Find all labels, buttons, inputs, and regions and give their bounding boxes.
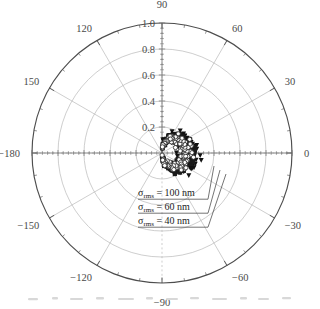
data-marker-40 <box>188 142 192 146</box>
angular-tick-30 <box>270 88 275 91</box>
data-marker-100 <box>198 153 203 158</box>
anno-100-label: σrms = 100 nm <box>138 187 195 200</box>
angular-tick-40 <box>259 69 261 71</box>
radial-tick-label: 0.6 <box>142 70 155 81</box>
polar-chart-canvas: 0306090120150−180−150−120−90−60−30 0.20.… <box>0 0 320 309</box>
angular-tick-310 <box>244 250 246 252</box>
angular-tick-320 <box>259 235 261 237</box>
data-marker-40 <box>163 163 167 167</box>
angular-tick-50 <box>244 53 246 55</box>
angle-tick-label: 150 <box>24 76 40 87</box>
radial-tick-label: 0.2 <box>142 122 155 133</box>
angular-tick-330 <box>270 215 275 218</box>
polar-plot-figure: 0306090120150−180−150−120−90−60−30 0.20.… <box>0 0 320 309</box>
angular-tick-150 <box>49 88 54 91</box>
data-marker-40 <box>188 137 192 141</box>
data-marker-40 <box>184 166 188 170</box>
data-marker-100 <box>186 173 191 178</box>
angular-tick-240 <box>97 261 100 266</box>
angle-tick-label: 120 <box>76 23 92 34</box>
angle-tick-label: −150 <box>18 220 40 231</box>
angular-tick-60 <box>224 40 227 45</box>
data-marker-40 <box>161 158 165 162</box>
data-marker-40 <box>180 136 184 140</box>
data-marker-40 <box>191 155 195 159</box>
angular-tick-120 <box>97 40 100 45</box>
angle-tick-label: −90 <box>154 297 170 308</box>
angle-tick-label: −30 <box>285 220 301 231</box>
data-marker-100 <box>199 158 204 163</box>
data-marker-60 <box>191 160 195 164</box>
angle-tick-label: 90 <box>157 0 168 10</box>
radial-tick-label: 0.4 <box>142 96 156 107</box>
data-marker-40 <box>190 151 194 155</box>
angle-tick-label: 30 <box>285 76 296 87</box>
angle-tick-label: 60 <box>232 23 243 34</box>
angular-tick-210 <box>49 215 54 218</box>
radial-tick-label: 0.8 <box>142 44 155 55</box>
annotation-layer: σrms = 100 nmσrms = 60 nmσrms = 40 nm <box>138 166 226 228</box>
data-marker-40 <box>172 167 176 171</box>
angle-tick-label: −180 <box>0 148 20 159</box>
angle-tick-label: 0 <box>304 148 309 159</box>
angular-tick-130 <box>78 53 80 55</box>
anno-60-label: σrms = 60 nm <box>138 201 190 214</box>
radial-tick-label-layer: 0.20.40.60.81.0 <box>142 18 156 133</box>
data-marker-40 <box>173 145 177 149</box>
angle-tick-label: −120 <box>70 272 92 283</box>
angular-tick-220 <box>62 235 64 237</box>
data-marker-40 <box>160 153 164 157</box>
angular-tick-300 <box>224 261 227 266</box>
anno-40-label: σrms = 40 nm <box>138 215 190 228</box>
radial-tick-label: 1.0 <box>142 18 155 29</box>
data-marker-40 <box>179 168 183 172</box>
data-marker-40 <box>160 145 164 149</box>
angular-tick-230 <box>78 250 80 252</box>
data-marker-40 <box>178 149 182 153</box>
angle-tick-label: −60 <box>232 272 248 283</box>
angular-tick-140 <box>62 69 64 71</box>
